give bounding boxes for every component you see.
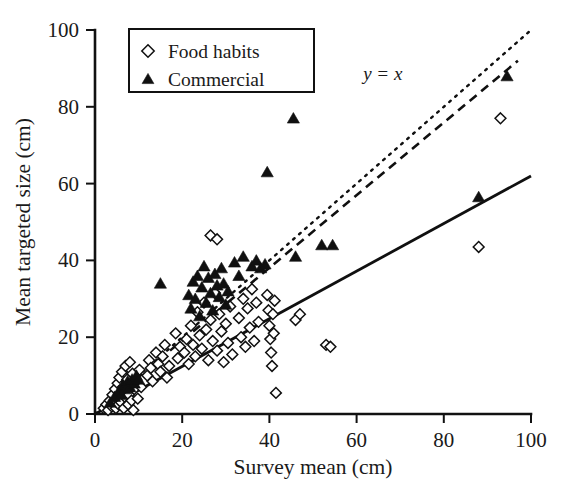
point-commercial	[198, 260, 210, 271]
point-food-habits	[233, 313, 244, 324]
y-tick-label-40: 40	[58, 248, 79, 272]
point-commercial	[237, 251, 249, 262]
point-commercial	[215, 262, 227, 273]
y-tick-label-80: 80	[58, 95, 79, 119]
annotation-y-equals-x: y = x	[361, 63, 403, 84]
point-food-habits	[218, 357, 229, 368]
point-commercial	[327, 239, 339, 250]
x-tick-label-20: 20	[172, 428, 193, 452]
y-tick-label-60: 60	[58, 172, 79, 196]
x-axis-tick-labels: 020406080100	[90, 428, 547, 452]
point-commercial	[287, 113, 299, 124]
x-axis-ticks	[95, 414, 531, 423]
point-food-habits	[267, 361, 278, 372]
point-food-habits	[271, 387, 282, 398]
point-food-habits	[266, 347, 277, 358]
scatter-plot-figure: 020406080100 020406080100 y = x Food hab…	[0, 0, 568, 502]
x-tick-label-40: 40	[259, 428, 280, 452]
point-food-habits	[251, 297, 262, 308]
y-tick-label-20: 20	[58, 325, 79, 349]
point-food-habits	[203, 355, 214, 366]
point-food-habits	[473, 242, 484, 253]
point-commercial	[154, 278, 166, 289]
point-food-habits	[249, 336, 260, 347]
x-axis-title: Survey mean (cm)	[234, 455, 393, 479]
food-habits-fit-line	[95, 176, 531, 414]
y-axis-title: Mean targeted size (cm)	[11, 118, 35, 326]
plot-canvas: 020406080100 020406080100 y = x Food hab…	[0, 0, 568, 502]
commercial-fit-line	[112, 61, 517, 399]
point-commercial	[191, 270, 203, 281]
point-commercial	[501, 70, 513, 81]
point-food-habits	[170, 328, 181, 339]
series-food-habits	[98, 113, 506, 416]
x-tick-label-60: 60	[346, 428, 367, 452]
point-commercial	[261, 166, 273, 177]
x-tick-label-0: 0	[90, 428, 101, 452]
legend: Food habitsCommercial	[129, 29, 314, 92]
point-food-habits	[247, 284, 258, 295]
y-axis-tick-labels: 020406080100	[48, 18, 80, 426]
point-food-habits	[495, 113, 506, 124]
annotations: y = x	[361, 63, 403, 84]
y-axis-ticks	[86, 30, 95, 414]
point-commercial	[473, 191, 485, 202]
point-food-habits	[227, 349, 238, 360]
y-tick-label-100: 100	[48, 18, 80, 42]
x-tick-label-80: 80	[433, 428, 454, 452]
point-commercial	[233, 270, 245, 281]
legend-label-food-habits: Food habits	[168, 41, 260, 62]
y-tick-label-0: 0	[69, 402, 80, 426]
point-commercial	[185, 303, 197, 314]
point-commercial	[316, 239, 328, 250]
point-food-habits	[164, 361, 175, 372]
legend-label-commercial: Commercial	[168, 69, 265, 90]
x-tick-label-100: 100	[515, 428, 547, 452]
point-commercial	[289, 251, 301, 262]
